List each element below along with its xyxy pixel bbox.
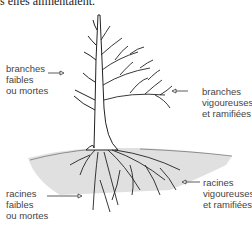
label-line: racines — [203, 177, 252, 188]
label-line: racines — [6, 188, 48, 199]
label-weak-branches: branches faibles ou mortes — [6, 63, 48, 96]
soil — [28, 148, 232, 195]
label-line: ou mortes — [6, 85, 48, 96]
label-line: et ramifiées — [202, 108, 252, 119]
label-weak-roots: racines faibles ou mortes — [6, 188, 48, 221]
label-line: faibles — [6, 74, 48, 85]
label-vigorous-roots: racines vigoureuses et ramifiées — [203, 177, 252, 210]
weak-branches — [74, 20, 97, 110]
label-line: ou mortes — [6, 210, 48, 221]
label-line: branches — [202, 86, 252, 97]
label-line: vigoureuses — [203, 188, 252, 199]
vigorous-branches — [101, 26, 172, 108]
trunk — [86, 15, 118, 150]
label-line: faibles — [6, 199, 48, 210]
label-line: vigoureuses — [202, 97, 252, 108]
label-line: branches — [6, 63, 48, 74]
label-line: et ramifiées — [203, 199, 252, 210]
label-vigorous-branches: branches vigoureuses et ramifiées — [202, 86, 252, 119]
